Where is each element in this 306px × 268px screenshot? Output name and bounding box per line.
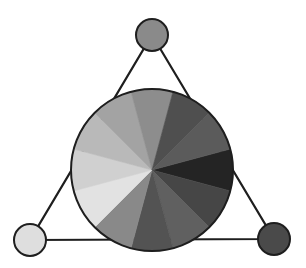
vertex-circle-top [136, 19, 168, 51]
vertex-circle-bottom-left [14, 224, 46, 256]
vertex-circle-bottom-right [258, 223, 290, 255]
color-wheel-diagram [0, 0, 306, 268]
